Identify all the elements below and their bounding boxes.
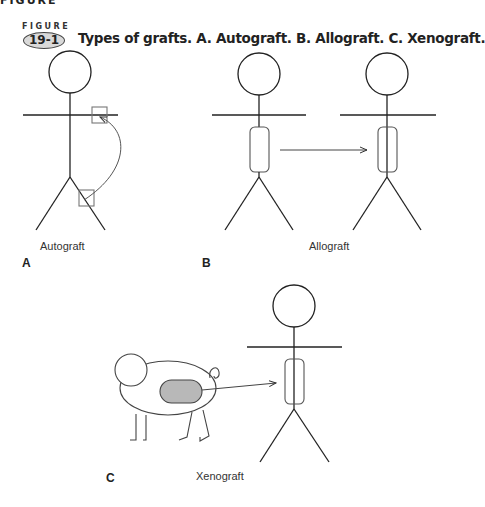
pig-graft-organ (160, 380, 202, 403)
panel-c-label: Xenograft (196, 470, 244, 482)
panel-a-label: Autograft (40, 240, 85, 252)
allograft-donor-figure (212, 53, 306, 230)
panel-a-letter: A (22, 256, 31, 270)
panel-c-letter: C (106, 471, 115, 485)
autograft-arrow (84, 117, 121, 200)
xenograft-recipient-figure (247, 285, 342, 462)
panel-b-label: Allograft (309, 240, 349, 252)
autograft-donor-recipient-boxes (79, 107, 107, 206)
autograft-figure (23, 51, 118, 230)
allograft-recipient-figure (340, 53, 436, 230)
head (49, 51, 91, 93)
panel-b-letter: B (202, 256, 211, 270)
